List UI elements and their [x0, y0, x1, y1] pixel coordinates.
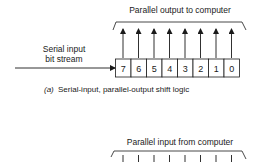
bit-label: 0 [229, 64, 234, 74]
bit-label: 3 [183, 64, 188, 74]
serial-input-label-1: Serial input [43, 44, 86, 54]
output-arrows [123, 29, 232, 58]
caption-letter: (a) [44, 85, 54, 94]
serial-input-label-2: bit stream [45, 54, 82, 64]
bit-label: 6 [136, 64, 141, 74]
caption-text: Serial-input, parallel-output shift logi… [58, 85, 189, 94]
parallel-input-title: Parallel input from computer [127, 137, 233, 147]
shift-register [116, 59, 240, 77]
bit-label: 7 [121, 64, 126, 74]
diagram-a: Parallel output to computer Serial input… [15, 5, 246, 94]
bit-label: 4 [167, 64, 172, 74]
shift-logic-diagram: Parallel output to computer Serial input… [0, 0, 258, 162]
input-bracket [111, 151, 246, 159]
diagram-b: Parallel input from computer [111, 137, 246, 162]
input-arrows [123, 155, 232, 162]
output-bracket [113, 22, 246, 30]
bit-label: 5 [152, 64, 157, 74]
bit-label: 1 [214, 64, 219, 74]
bit-label: 2 [198, 64, 203, 74]
parallel-output-title: Parallel output to computer [129, 5, 231, 15]
